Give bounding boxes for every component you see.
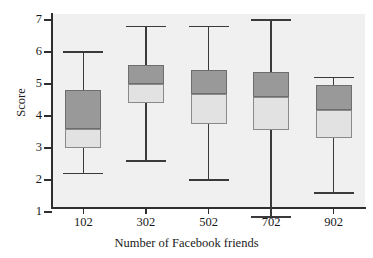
x-tick-label: 702: [241, 216, 301, 229]
lower-whisker-cap: [251, 216, 291, 218]
upper-whisker-line: [83, 52, 85, 90]
box-upper-quartile: [253, 72, 289, 97]
y-tick-label: 2: [16, 173, 42, 186]
lower-whisker-cap: [126, 160, 166, 162]
y-tick-mark: [44, 211, 52, 213]
y-tick-mark: [44, 115, 52, 117]
x-tick-mark: [83, 209, 85, 214]
y-axis-title: Score: [14, 73, 29, 133]
upper-whisker-cap: [314, 77, 354, 79]
y-tick-mark: [44, 83, 52, 85]
upper-whisker-cap: [189, 26, 229, 28]
x-tick-mark: [333, 209, 335, 214]
lower-whisker-line: [145, 103, 147, 161]
boxplot-figure: 7654321 Score 102302502702902 Number of …: [0, 0, 373, 258]
box-lower-quartile: [253, 97, 289, 131]
upper-whisker-line: [145, 26, 147, 64]
box-lower-quartile: [191, 94, 227, 124]
box-lower-quartile: [316, 110, 352, 139]
box-upper-quartile: [191, 70, 227, 94]
x-tick-label: 902: [304, 216, 364, 229]
box-upper-quartile: [316, 85, 352, 110]
x-tick-mark: [145, 209, 147, 214]
upper-whisker-cap: [251, 19, 291, 21]
y-tick-label: 7: [16, 13, 42, 26]
upper-whisker-line: [333, 78, 335, 85]
box-upper-quartile: [65, 90, 101, 128]
upper-whisker-line: [208, 26, 210, 69]
y-tick-mark: [44, 19, 52, 21]
y-tick-mark: [44, 147, 52, 149]
y-tick-mark: [44, 51, 52, 53]
y-tick-mark: [44, 179, 52, 181]
y-tick-label: 1: [16, 205, 42, 218]
lower-whisker-cap: [63, 173, 103, 175]
box-lower-quartile: [128, 84, 164, 103]
lower-whisker-line: [83, 148, 85, 174]
lower-whisker-cap: [314, 192, 354, 194]
y-tick-label: 3: [16, 141, 42, 154]
upper-whisker-line: [270, 20, 272, 72]
x-tick-label: 502: [179, 216, 239, 229]
lower-whisker-cap: [189, 179, 229, 181]
lower-whisker-line: [270, 130, 272, 216]
box-lower-quartile: [65, 129, 101, 148]
x-tick-label: 302: [116, 216, 176, 229]
upper-whisker-cap: [126, 26, 166, 28]
lower-whisker-line: [333, 138, 335, 192]
x-tick-label: 102: [53, 216, 113, 229]
y-tick-label: 6: [16, 45, 42, 58]
x-tick-mark: [208, 209, 210, 214]
x-axis-title: Number of Facebook friends: [0, 236, 373, 251]
box-upper-quartile: [128, 65, 164, 84]
lower-whisker-line: [208, 124, 210, 180]
upper-whisker-cap: [63, 51, 103, 53]
